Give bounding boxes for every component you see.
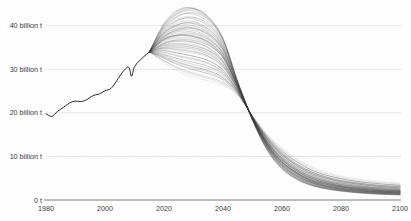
scenario-line xyxy=(149,49,400,188)
scenario-line xyxy=(149,39,400,192)
scenario-lines-group xyxy=(149,7,400,194)
scenario-line xyxy=(149,47,400,190)
emissions-scenarios-chart: 40 billion t30 billion t20 billion t10 b… xyxy=(0,0,411,221)
scenario-line xyxy=(149,9,400,195)
x-axis-label-1980: 1980 xyxy=(38,204,54,213)
scenario-line xyxy=(149,13,400,194)
chart-plot-area: 40 billion t30 billion t20 billion t10 b… xyxy=(0,0,411,221)
scenario-line xyxy=(149,51,400,189)
y-axis-label-40: 40 billion t xyxy=(10,21,42,30)
historical-line-group xyxy=(46,52,149,117)
x-axis-label-2000: 2000 xyxy=(97,204,113,213)
scenario-line xyxy=(149,28,400,193)
scenario-line xyxy=(149,11,400,195)
scenario-line xyxy=(149,52,400,183)
x-axis-labels-group: 1980200020202040206020802100 xyxy=(38,204,408,213)
scenario-line xyxy=(149,43,400,190)
x-axis-label-2100: 2100 xyxy=(392,204,408,213)
scenario-line xyxy=(149,47,400,190)
scenario-line xyxy=(149,30,400,193)
scenario-line xyxy=(149,45,400,190)
y-axis-label-10: 10 billion t xyxy=(10,152,42,161)
y-axis-label-20: 20 billion t xyxy=(10,108,42,117)
scenario-line xyxy=(149,52,400,185)
x-axis-label-2040: 2040 xyxy=(215,204,231,213)
scenario-line xyxy=(149,27,400,193)
scenario-line xyxy=(149,37,400,191)
scenario-line xyxy=(149,17,400,194)
y-axis-labels-group: 40 billion t30 billion t20 billion t10 b… xyxy=(10,21,42,204)
scenario-line xyxy=(149,52,400,184)
scenario-line xyxy=(149,52,400,187)
scenario-line xyxy=(149,33,400,192)
x-axis-label-2020: 2020 xyxy=(156,204,172,213)
x-axis-label-2060: 2060 xyxy=(274,204,290,213)
scenario-line xyxy=(149,28,400,193)
scenario-line xyxy=(149,40,400,192)
scenario-line xyxy=(149,41,400,191)
historical-emissions-line xyxy=(46,52,149,117)
scenario-line xyxy=(149,36,400,192)
scenario-line xyxy=(149,9,400,195)
scenario-line xyxy=(149,41,400,190)
scenario-line xyxy=(149,52,400,187)
x-axis-label-2080: 2080 xyxy=(333,204,349,213)
scenario-line xyxy=(149,52,400,186)
scenario-line xyxy=(149,52,400,185)
scenario-line xyxy=(149,16,400,193)
scenario-line xyxy=(149,35,400,191)
scenario-line xyxy=(149,45,400,190)
y-axis-label-30: 30 billion t xyxy=(10,65,42,74)
